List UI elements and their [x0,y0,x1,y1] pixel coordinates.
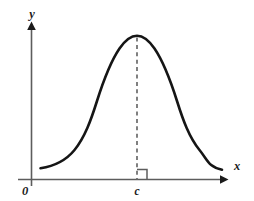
bell-curve-path [41,36,223,170]
figure-canvas: y x 0 c [0,0,254,201]
right-angle-marker [137,170,147,180]
y-axis-arrowhead [27,22,36,31]
y-axis-label: y [27,7,35,21]
origin-label: 0 [22,184,29,198]
x-axis-arrowhead [220,175,229,184]
x-axis-label: x [233,159,240,173]
peak-x-tick-label: c [134,185,139,197]
bell-curve-figure: y x 0 c [0,0,254,201]
